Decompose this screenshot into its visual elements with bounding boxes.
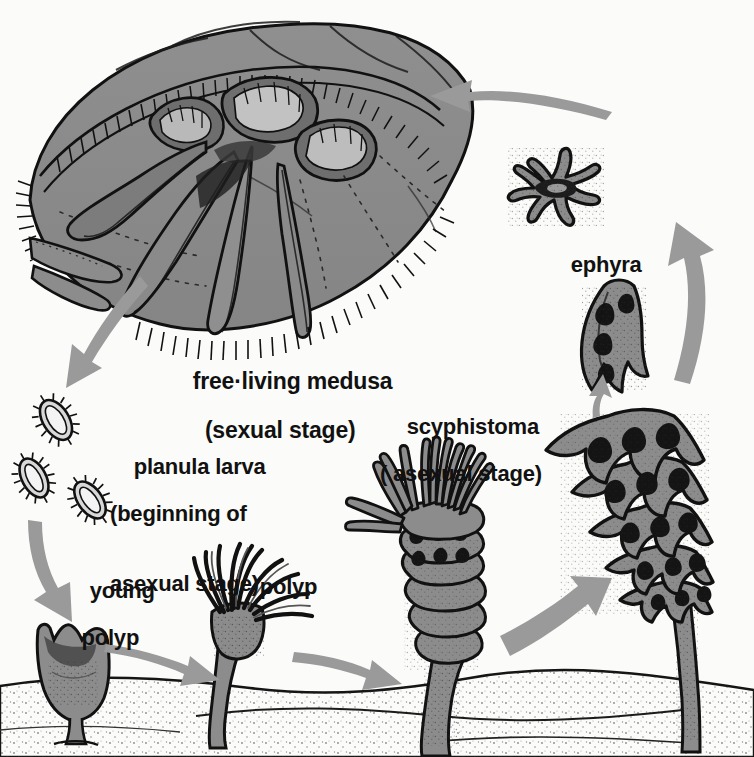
label-scyphistoma-line2: ( asexual stage) — [380, 462, 542, 485]
label-scyphistoma: scyphistoma ( asexual stage) — [380, 392, 542, 532]
label-scyphistoma-line1: scyphistoma — [407, 414, 539, 439]
label-planula-line1: planula larva — [134, 454, 266, 479]
ephyra-illustration — [508, 148, 604, 226]
label-ephyra-line1: ephyra — [571, 252, 642, 277]
label-ephyra: ephyra — [547, 230, 642, 300]
label-young-polyp: young polyp — [66, 556, 155, 696]
label-polyp: polyp — [236, 552, 317, 622]
life-cycle-diagram: free·living medusa (sexual stage) planul… — [0, 0, 754, 757]
label-young-polyp-line2: polyp — [66, 626, 155, 649]
label-planula-line2: (beginning of — [110, 502, 266, 525]
label-young-polyp-line1: young — [90, 578, 155, 603]
label-polyp-line1: polyp — [260, 574, 318, 599]
label-medusa-line1: free·living medusa — [193, 368, 393, 394]
